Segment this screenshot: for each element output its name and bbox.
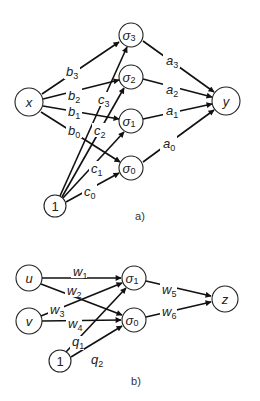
node-x-label: x xyxy=(25,95,33,110)
diagram-b-edge-labels: w1 w2 w3 w4 q1 q2 w5 w6 xyxy=(50,264,176,369)
node-v: v xyxy=(16,308,42,334)
diagram-b-nodes: u v 1 σ1 σ0 z xyxy=(16,265,238,372)
node-u-label: u xyxy=(25,271,32,286)
node-b-sigma-1-sub: 1 xyxy=(133,276,138,286)
node-b-sigma-1: σ1 xyxy=(122,266,146,290)
node-y: y xyxy=(212,87,240,115)
node-sigma-2: σ2 xyxy=(119,65,143,89)
node-sigma-3: σ3 xyxy=(119,23,143,47)
node-sigma-2-sub: 2 xyxy=(130,75,135,85)
node-b-sigma-0-sub: 0 xyxy=(133,318,138,328)
node-z: z xyxy=(212,286,238,312)
edge-x-s3 xyxy=(42,42,119,94)
node-bias-a-label: 1 xyxy=(51,199,58,214)
diagram-canvas: x 1 σ3 σ2 σ1 σ0 y b3 b2 b1 b0 xyxy=(0,0,260,401)
node-z-label: z xyxy=(221,292,229,307)
node-bias-b-label: 1 xyxy=(56,354,63,369)
node-b-sigma-0: σ0 xyxy=(122,308,146,332)
node-sigma-3-sub: 3 xyxy=(130,33,135,43)
node-bias-a: 1 xyxy=(44,195,66,217)
edge-bs1-z xyxy=(146,281,211,296)
node-sigma-0: σ0 xyxy=(119,156,143,180)
node-bias-b: 1 xyxy=(49,350,71,372)
node-u: u xyxy=(16,265,42,291)
node-sigma-1-sub: 1 xyxy=(130,119,135,129)
edge-bs0-z xyxy=(146,302,211,317)
node-x: x xyxy=(15,88,43,116)
caption-a: a) xyxy=(135,210,145,222)
node-sigma-1: σ1 xyxy=(119,109,143,133)
weight-label-q2: q2 xyxy=(91,352,103,369)
diagram-a-nodes: x 1 σ3 σ2 σ1 σ0 y xyxy=(15,23,240,217)
node-sigma-0-sub: 0 xyxy=(130,166,135,176)
caption-b: b) xyxy=(131,375,141,387)
